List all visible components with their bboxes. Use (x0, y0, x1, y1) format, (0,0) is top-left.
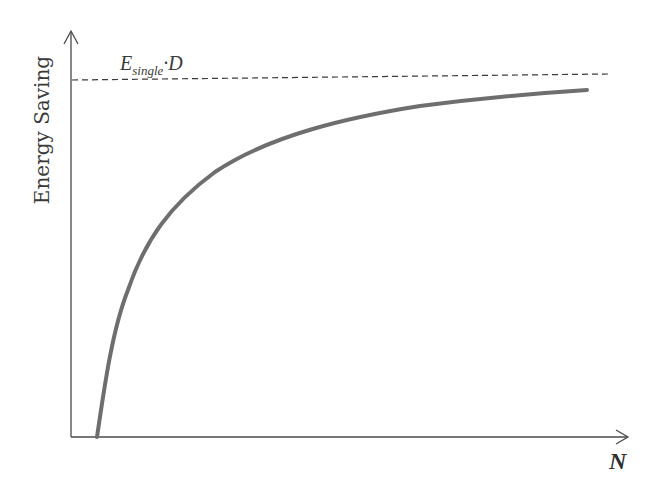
x-axis (71, 430, 628, 444)
asymptote-label-suffix: ·D (163, 52, 182, 74)
x-axis-label: N (609, 448, 626, 475)
energy-saving-curve (97, 90, 587, 437)
y-axis-label: Energy Saving (30, 56, 54, 204)
asymptote-label-subscript: single (132, 63, 163, 78)
y-axis (64, 31, 78, 437)
asymptote-label: Esingle·D (120, 52, 183, 79)
asymptote-label-main: E (120, 52, 132, 74)
chart-canvas (0, 0, 656, 489)
